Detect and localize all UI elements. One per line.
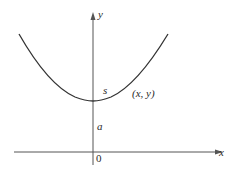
arc-length-label: s: [103, 84, 107, 96]
x-axis-label: x: [218, 146, 224, 158]
catenary-diagram: y x 0 a s (x, y): [0, 0, 231, 176]
x-axis: [14, 150, 223, 155]
y-axis: [91, 12, 96, 165]
point-label: (x, y): [132, 87, 155, 100]
origin-label: 0: [96, 152, 102, 164]
y-axis-arrow-icon: [91, 12, 96, 20]
y-axis-label: y: [97, 8, 103, 20]
vertex-height-label: a: [97, 120, 103, 132]
